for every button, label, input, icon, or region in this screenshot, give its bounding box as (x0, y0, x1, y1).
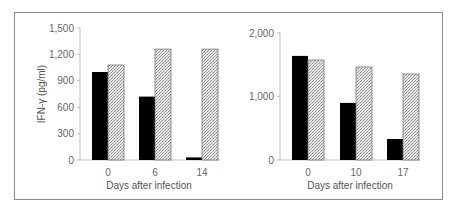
bar-day10-hatched (356, 67, 372, 160)
left-xtick-0: 0 (105, 167, 111, 178)
right-xtick-10: 10 (350, 167, 362, 178)
right-ytick-1000: 1,000 (249, 91, 274, 102)
left-ytick-300: 300 (57, 128, 74, 139)
left-y-axis-title: IFN-γ (pg/ml) (36, 65, 47, 123)
bar-day0-hatched (308, 60, 324, 160)
right-xtick-0: 0 (305, 167, 311, 178)
bar-day14-hatched (202, 49, 218, 160)
right-chart: 2,000 1,000 0 0 10 17 Days after infecti… (249, 28, 420, 192)
left-ytick-0: 0 (68, 155, 74, 166)
left-xtick-14: 14 (196, 167, 208, 178)
left-xtick-6: 6 (152, 167, 158, 178)
left-ytick-600: 600 (57, 102, 74, 113)
bar-day0-black (292, 56, 308, 160)
bar-day6-hatched (155, 49, 171, 160)
bar-day0-black (92, 72, 108, 160)
left-ytick-900: 900 (57, 75, 74, 86)
bar-day14-black (186, 157, 202, 160)
bar-day17-black (387, 139, 403, 160)
left-bars (92, 49, 218, 160)
left-ytick-1200: 1,200 (49, 49, 74, 60)
right-bars (292, 56, 419, 160)
left-ytick-1500: 1,500 (49, 23, 74, 34)
bar-day17-hatched (403, 74, 419, 160)
figure-canvas: 1,500 1,200 900 600 300 0 IFN-γ (pg/ml) … (0, 0, 456, 214)
left-x-axis-title: Days after infection (106, 180, 192, 191)
right-ytick-2000: 2,000 (249, 28, 274, 39)
right-ytick-0: 0 (268, 155, 274, 166)
bar-day6-black (139, 97, 155, 160)
left-chart: 1,500 1,200 900 600 300 0 IFN-γ (pg/ml) … (36, 23, 220, 192)
right-x-axis-title: Days after infection (307, 180, 393, 191)
bar-day0-hatched (108, 65, 124, 160)
right-xtick-17: 17 (397, 167, 409, 178)
bar-day10-black (340, 103, 356, 160)
